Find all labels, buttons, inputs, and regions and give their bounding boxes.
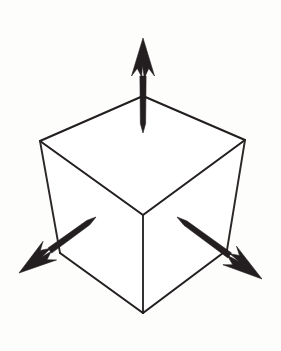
cube-arrows-diagram <box>0 0 281 351</box>
arrow-up-shaft <box>140 76 146 133</box>
figure-root: Cube with three orthogonal direction arr… <box>0 0 281 351</box>
